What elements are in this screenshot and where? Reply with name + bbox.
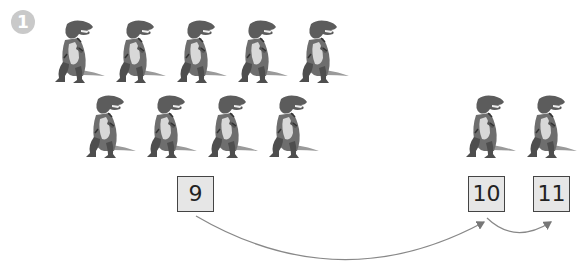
arrow-9-to-10: [196, 216, 484, 260]
count-on-arrows: [0, 0, 585, 263]
arrow-10-to-11: [487, 218, 551, 233]
